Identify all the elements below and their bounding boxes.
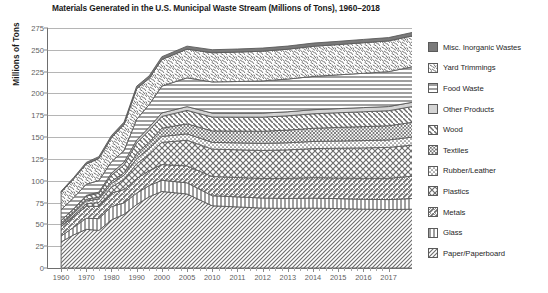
legend-label: Other Products <box>443 105 494 114</box>
x-minor-tick <box>319 268 320 271</box>
x-minor-tick <box>124 268 125 271</box>
x-minor-tick <box>225 268 226 271</box>
x-minor-tick <box>181 268 182 271</box>
x-minor-tick <box>357 268 358 271</box>
x-minor-tick <box>382 268 383 271</box>
y-tick-label: 275 <box>2 24 44 33</box>
x-minor-tick <box>282 268 283 271</box>
legend-item-wood[interactable]: Wood <box>428 119 546 140</box>
x-minor-tick <box>74 268 75 271</box>
x-minor-tick <box>370 268 371 271</box>
x-minor-tick <box>294 268 295 271</box>
x-minor-tick <box>332 268 333 271</box>
legend-item-other-products[interactable]: Other Products <box>428 99 546 120</box>
chart-container: Materials Generated in the U.S. Municipa… <box>0 0 548 293</box>
x-minor-tick <box>351 268 352 271</box>
x-minor-tick <box>344 268 345 271</box>
x-tick-label: 1960 <box>53 273 69 282</box>
legend-item-food-waste[interactable]: Food Waste <box>428 78 546 99</box>
legend-label: Rubber/Leather <box>443 166 496 175</box>
x-tick-mark <box>237 268 238 272</box>
y-tick-label: 150 <box>2 133 44 142</box>
y-tick-label: 0 <box>2 264 44 273</box>
legend-swatch-icon <box>428 104 438 114</box>
y-tick-label: 100 <box>2 176 44 185</box>
x-tick-label: 1970 <box>78 273 94 282</box>
y-tick-label: 175 <box>2 111 44 120</box>
legend-item-paper-paperboard[interactable]: Paper/Paperboard <box>428 243 546 264</box>
x-minor-tick <box>206 268 207 271</box>
x-tick-label: 2014 <box>305 273 321 282</box>
legend-label: Textiles <box>443 146 468 155</box>
y-tick-label: 25 <box>2 242 44 251</box>
x-minor-tick <box>307 268 308 271</box>
x-tick-mark <box>137 268 138 272</box>
x-tick-mark <box>86 268 87 272</box>
legend-swatch-icon <box>428 145 438 155</box>
x-tick-label: 2013 <box>280 273 296 282</box>
legend-label: Yard Trimmings <box>443 63 496 72</box>
x-tick-mark <box>338 268 339 272</box>
legend-item-rubber-leather[interactable]: Rubber/Leather <box>428 161 546 182</box>
x-tick-mark <box>389 268 390 272</box>
stacked-area-svg <box>48 28 412 268</box>
x-tick-label: 2010 <box>204 273 220 282</box>
x-tick-label: 1980 <box>103 273 119 282</box>
legend-item-glass[interactable]: Glass <box>428 222 546 243</box>
legend-label: Paper/Paperboard <box>443 249 505 258</box>
legend-swatch-icon <box>428 248 438 258</box>
legend-label: Food Waste <box>443 84 484 93</box>
x-tick-mark <box>212 268 213 272</box>
x-minor-tick <box>156 268 157 271</box>
x-minor-tick <box>300 268 301 271</box>
x-minor-tick <box>376 268 377 271</box>
x-tick-label: 2016 <box>355 273 371 282</box>
x-minor-tick <box>168 268 169 271</box>
legend-item-yard-trimmings[interactable]: Yard Trimmings <box>428 58 546 79</box>
x-minor-tick <box>93 268 94 271</box>
x-minor-tick <box>193 268 194 271</box>
x-minor-tick <box>275 268 276 271</box>
x-tick-label: 2012 <box>254 273 270 282</box>
x-tick-label: 2017 <box>380 273 396 282</box>
x-minor-tick <box>105 268 106 271</box>
x-minor-tick <box>326 268 327 271</box>
x-tick-label: 2011 <box>229 273 245 282</box>
y-tick-label: 200 <box>2 89 44 98</box>
chart-legend: Misc. Inorganic Wastes <box>428 37 546 264</box>
chart-title: Materials Generated in the U.S. Municipa… <box>52 3 380 13</box>
x-minor-tick <box>200 268 201 271</box>
legend-swatch-icon <box>428 125 438 135</box>
x-minor-tick <box>244 268 245 271</box>
x-minor-tick <box>149 268 150 271</box>
legend-swatch-icon <box>428 207 438 217</box>
x-tick-mark <box>187 268 188 272</box>
legend-item-textiles[interactable]: Textiles <box>428 140 546 161</box>
y-tick-label: 250 <box>2 45 44 54</box>
legend-swatch-icon <box>428 42 438 52</box>
legend-label: Glass <box>443 228 462 237</box>
legend-item-plastics[interactable]: Plastics <box>428 181 546 202</box>
legend-label: Metals <box>443 208 465 217</box>
legend-label: Wood <box>443 125 463 134</box>
x-minor-tick <box>219 268 220 271</box>
x-minor-tick <box>143 268 144 271</box>
x-minor-tick <box>250 268 251 271</box>
x-tick-label: 2015 <box>330 273 346 282</box>
x-tick-mark <box>111 268 112 272</box>
legend-item-misc-inorganic-wastes[interactable]: Misc. Inorganic Wastes <box>428 37 546 58</box>
x-tick-mark <box>288 268 289 272</box>
x-minor-tick <box>231 268 232 271</box>
x-tick-mark <box>263 268 264 272</box>
y-tick-label: 225 <box>2 67 44 76</box>
stacked-area-plot <box>48 28 412 268</box>
x-minor-tick <box>256 268 257 271</box>
legend-swatch-icon <box>428 83 438 93</box>
legend-item-metals[interactable]: Metals <box>428 202 546 223</box>
legend-label: Plastics <box>443 187 469 196</box>
x-tick-label: 1990 <box>128 273 144 282</box>
x-tick-mark <box>313 268 314 272</box>
x-minor-tick <box>269 268 270 271</box>
x-tick-mark <box>61 268 62 272</box>
x-minor-tick <box>80 268 81 271</box>
